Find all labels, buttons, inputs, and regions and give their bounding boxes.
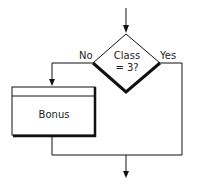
decision-diamond: Class = 3? xyxy=(93,34,160,92)
no-label: No xyxy=(79,50,93,61)
exit-arrow xyxy=(123,155,129,178)
yes-branch: Yes xyxy=(159,50,182,155)
entry-arrow xyxy=(123,8,129,33)
decision-text-line2: = 3? xyxy=(115,62,138,73)
yes-label: Yes xyxy=(159,50,176,61)
process-box: Bonus xyxy=(12,87,95,136)
no-branch: No xyxy=(49,50,93,86)
process-label: Bonus xyxy=(39,109,70,120)
merge-connector xyxy=(52,137,182,155)
flowchart: Class = 3? No Yes Bonus xyxy=(0,0,198,190)
decision-text-line1: Class xyxy=(114,50,140,61)
